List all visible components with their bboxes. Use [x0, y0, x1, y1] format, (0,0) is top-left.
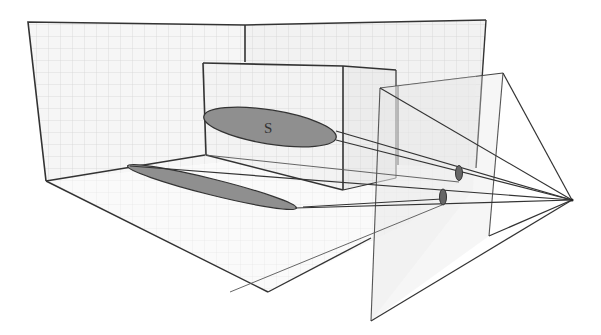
focal-point	[570, 198, 573, 201]
perspective-diagram: S	[0, 0, 601, 335]
image-ellipse-upper	[456, 166, 463, 181]
shape-label-s: S	[264, 120, 272, 136]
image-ellipse-lower	[440, 189, 447, 205]
